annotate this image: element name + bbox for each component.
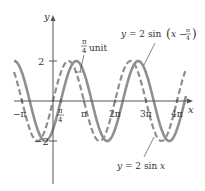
shifted-eq-den: 4 [186,34,190,41]
x-tick-label-4pi: 4π [171,109,183,119]
x-tick-label-pi4-num: π [58,107,63,115]
x-tick-label-3pi: 3π [140,109,152,119]
shift-label-den: 4 [82,47,87,55]
y-axis-arrow-icon [51,15,56,21]
y-axis-label: y [43,11,50,22]
shift-label-unit: unit [89,43,107,53]
y-tick-label-neg2: −2 [34,136,49,147]
base-eq-label: y = 2 sin x [116,161,165,171]
shifted-eq-lparen: ( [166,27,171,41]
x-axis-label: x [188,104,194,115]
shift-label-num: π [82,38,87,46]
shifted-eq-rparen: ) [192,27,197,41]
base-eq-leader [144,137,154,157]
shifted-eq-inner: x − [171,29,186,39]
x-tick-label-pi: π [81,109,87,119]
x-tick-label-negpi: −π [13,109,27,119]
sine-shift-chart: y x 2 −2 −π π 4 π 2π 3π 4π π 4 unit y = … [0,0,205,191]
x-axis-arrow-icon [187,99,193,104]
x-tick-label-2pi: 2π [109,109,121,119]
shifted-eq-prefix: y = 2 sin [120,29,161,39]
x-tick-label-pi4-den: 4 [58,116,63,124]
y-tick-label-2: 2 [38,56,44,67]
shifted-eq-leader [144,43,155,65]
shifted-eq-num: π [186,26,190,33]
